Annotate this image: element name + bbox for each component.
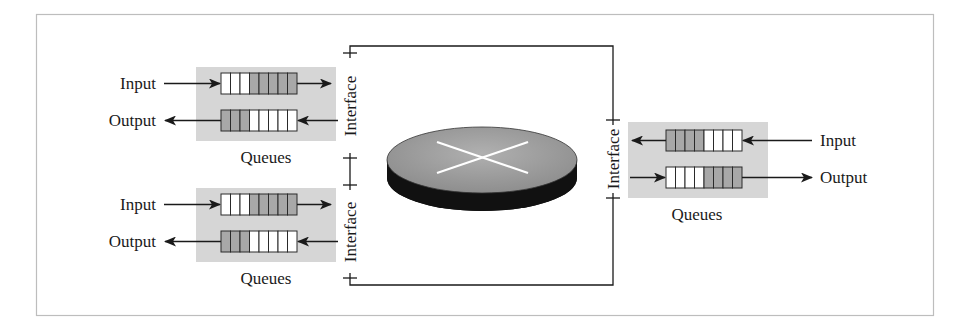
- queues-caption: Queues: [672, 205, 723, 224]
- queue-group-left-bottom: InputOutputQueues: [109, 188, 338, 288]
- queue-cell: [221, 110, 231, 131]
- queue-cell: [733, 130, 743, 151]
- queue-cell: [723, 167, 733, 188]
- queue-cell: [704, 130, 714, 151]
- queue-cell: [714, 167, 724, 188]
- queue-cell: [666, 167, 676, 188]
- queues-caption: Queues: [241, 148, 292, 167]
- input-label: Input: [120, 74, 156, 93]
- queue-cell: [695, 167, 705, 188]
- queue-cell: [288, 110, 298, 131]
- queue-cell: [288, 73, 298, 94]
- queue-cell: [269, 194, 279, 215]
- queue-cell: [278, 231, 288, 252]
- output-queue: [221, 231, 297, 252]
- interface-label: Interface: [341, 76, 360, 136]
- input-label: Input: [820, 131, 856, 150]
- router-diagram: Interface Interface Interface InputOutpu…: [0, 0, 967, 335]
- queue-cell: [278, 194, 288, 215]
- queue-cell: [259, 231, 269, 252]
- queue-cell: [240, 231, 250, 252]
- queue-cell: [240, 73, 250, 94]
- queue-cell: [288, 231, 298, 252]
- output-queue: [666, 167, 742, 188]
- queue-cell: [231, 194, 241, 215]
- queue-cell: [250, 73, 260, 94]
- queue-cell: [723, 130, 733, 151]
- queue-cell: [269, 110, 279, 131]
- queue-cell: [221, 73, 231, 94]
- queue-cell: [685, 167, 695, 188]
- output-label: Output: [820, 168, 868, 187]
- queue-cell: [259, 194, 269, 215]
- queue-cell: [221, 231, 231, 252]
- interface-left-top: Interface: [341, 53, 360, 158]
- queue-cell: [733, 167, 743, 188]
- interface-right: Interface: [604, 120, 623, 198]
- output-label: Output: [109, 111, 157, 130]
- interface-label: Interface: [341, 202, 360, 262]
- output-queue: [221, 110, 297, 131]
- queue-cell: [250, 194, 260, 215]
- queue-cell: [278, 110, 288, 131]
- queue-cell: [269, 73, 279, 94]
- output-label: Output: [109, 232, 157, 251]
- queue-cell: [221, 194, 231, 215]
- queue-cell: [278, 73, 288, 94]
- queue-cell: [666, 130, 676, 151]
- queue-cell: [685, 130, 695, 151]
- router-disk-icon: [387, 127, 577, 211]
- input-queue: [221, 194, 297, 215]
- queue-cell: [231, 110, 241, 131]
- queue-cell: [676, 167, 686, 188]
- queue-cell: [240, 110, 250, 131]
- interface-left-bottom: Interface: [341, 185, 360, 278]
- queue-cell: [231, 73, 241, 94]
- queue-group-right: InputOutputQueues: [628, 122, 868, 224]
- queue-cell: [259, 110, 269, 131]
- queue-group-left-top: InputOutputQueues: [109, 67, 338, 167]
- input-queue: [666, 130, 742, 151]
- queue-cell: [250, 110, 260, 131]
- input-queue: [221, 73, 297, 94]
- queue-cell: [288, 194, 298, 215]
- queue-cell: [231, 231, 241, 252]
- queue-cell: [704, 167, 714, 188]
- queue-cell: [676, 130, 686, 151]
- queue-cell: [695, 130, 705, 151]
- queue-cell: [240, 194, 250, 215]
- input-label: Input: [120, 195, 156, 214]
- queue-cell: [714, 130, 724, 151]
- queue-cell: [269, 231, 279, 252]
- queues-caption: Queues: [241, 269, 292, 288]
- queue-cell: [259, 73, 269, 94]
- queue-cell: [250, 231, 260, 252]
- interface-label: Interface: [604, 129, 623, 189]
